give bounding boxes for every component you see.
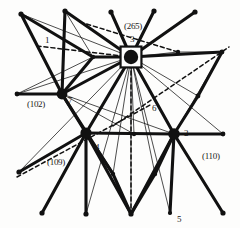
- thin-edge: [62, 94, 174, 134]
- terminal-node[interactable]: [18, 11, 23, 16]
- terminal-node[interactable]: [15, 92, 20, 97]
- terminal-node[interactable]: [39, 210, 44, 215]
- node-label-5: 5: [177, 215, 182, 224]
- terminal-node[interactable]: [62, 8, 67, 13]
- terminal-node[interactable]: [128, 211, 133, 216]
- terminal-node[interactable]: [220, 210, 225, 215]
- thick-edge: [174, 134, 223, 213]
- terminal-node[interactable]: [16, 169, 21, 174]
- terminal-node[interactable]: [151, 8, 156, 13]
- node-5[interactable]: [168, 211, 172, 215]
- terminal-node[interactable]: [192, 9, 197, 14]
- node-label-2: 2: [184, 129, 189, 138]
- node-2[interactable]: [168, 128, 180, 140]
- thick-edge: [62, 57, 93, 94]
- node-label-1: 1: [45, 36, 50, 45]
- terminal-node[interactable]: [221, 132, 226, 137]
- terminal-node[interactable]: [220, 50, 225, 55]
- thick-edge: [170, 134, 174, 213]
- thick-edge: [86, 133, 174, 134]
- miller-index-label: (265): [124, 22, 142, 31]
- miller-index-label: (110): [202, 152, 220, 161]
- diagram-canvas: (265)(102)(109)(110) 3742651: [0, 0, 240, 228]
- node-label-7: 7: [68, 96, 73, 105]
- terminal-node[interactable]: [132, 132, 136, 136]
- thick-edge: [62, 11, 65, 94]
- thick-edge: [198, 52, 222, 96]
- terminal-node[interactable]: [176, 50, 180, 54]
- node-label-3: 3: [130, 35, 135, 44]
- thick-edge: [113, 174, 131, 214]
- miller-index-label: (109): [47, 158, 65, 167]
- terminal-node[interactable]: [108, 9, 113, 14]
- terminal-node[interactable]: [196, 94, 201, 99]
- miller-index-label: (102): [27, 100, 45, 109]
- node-label-6: 6: [152, 104, 157, 113]
- network-graph-svg: [0, 0, 240, 228]
- thick-edge: [131, 174, 155, 214]
- terminal-node[interactable]: [91, 55, 95, 59]
- terminal-node[interactable]: [111, 172, 115, 176]
- node-3[interactable]: [124, 50, 138, 64]
- thin-edge: [17, 57, 93, 94]
- node-4[interactable]: [80, 127, 91, 138]
- node-7[interactable]: [57, 89, 68, 100]
- node-label-4: 4: [95, 143, 100, 152]
- thick-edge: [131, 57, 174, 134]
- terminal-node[interactable]: [153, 172, 157, 176]
- terminal-node[interactable]: [83, 211, 88, 216]
